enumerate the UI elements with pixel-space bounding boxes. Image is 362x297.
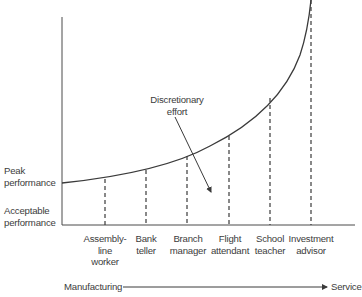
continuum-end-label: Service xyxy=(331,281,362,293)
acceptable-performance-label: Acceptable performance xyxy=(4,205,56,228)
occupation-label-school-teacher: School teacher xyxy=(255,233,286,256)
annotation-line2: effort xyxy=(150,106,203,118)
occupation-line: Branch xyxy=(170,233,206,245)
occupation-line: Assembly- xyxy=(84,233,127,245)
continuum-start-label: Manufacturing xyxy=(64,281,122,293)
peak-performance-label: Peak performance xyxy=(4,165,56,188)
peak-label-line2: performance xyxy=(4,177,56,189)
occupation-line: Flight xyxy=(211,233,249,245)
occupation-label-branch-manager: Branch manager xyxy=(170,233,206,256)
occupation-markers xyxy=(105,0,311,225)
occupation-line: teacher xyxy=(255,245,286,257)
occupation-line: Investment xyxy=(289,233,334,245)
occupation-label-bank-teller: Bank teller xyxy=(135,233,156,256)
occupation-line: attendant xyxy=(211,245,249,257)
peak-label-line1: Peak xyxy=(4,165,56,177)
occupation-line: teller xyxy=(135,245,156,257)
occupation-line: advisor xyxy=(289,245,334,257)
occupation-label-assembly-line-worker: Assembly- line worker xyxy=(84,233,127,268)
occupation-line: Bank xyxy=(135,233,156,245)
occupation-line: worker xyxy=(84,256,127,268)
occupation-label-investment-advisor: Investment advisor xyxy=(289,233,334,256)
occupation-line: manager xyxy=(170,245,206,257)
acceptable-label-line1: Acceptable xyxy=(4,205,56,217)
occupation-label-flight-attendant: Flight attendant xyxy=(211,233,249,256)
acceptable-label-line2: performance xyxy=(4,217,56,229)
occupation-line: line xyxy=(84,245,127,257)
performance-curve xyxy=(62,0,311,183)
occupation-line: School xyxy=(255,233,286,245)
discretionary-effort-arrow xyxy=(175,117,211,192)
discretionary-effort-label: Discretionary effort xyxy=(150,94,203,117)
annotation-line1: Discretionary xyxy=(150,94,203,106)
